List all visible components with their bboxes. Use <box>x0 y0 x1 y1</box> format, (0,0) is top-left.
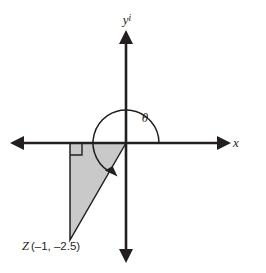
y-axis-bottom-arrowhead <box>119 249 133 263</box>
y-axis-label: yi <box>121 12 132 27</box>
point-z-name: Z <box>22 239 30 253</box>
theta-angle-label: θ <box>142 110 149 125</box>
x-axis-right-arrowhead <box>217 136 231 150</box>
point-z-label: Z(–1, –2.5) <box>22 239 80 253</box>
complex-plane-diagram: x yi θ Z(–1, –2.5) <box>0 0 266 273</box>
y-axis-label-superscript-i: i <box>129 13 132 23</box>
y-axis-top-arrowhead <box>119 30 133 44</box>
x-axis-label: x <box>232 135 239 150</box>
figure-container: x yi θ Z(–1, –2.5) <box>0 0 266 273</box>
x-axis-left-arrowhead <box>10 136 24 150</box>
point-z-coordinates: (–1, –2.5) <box>31 240 80 252</box>
